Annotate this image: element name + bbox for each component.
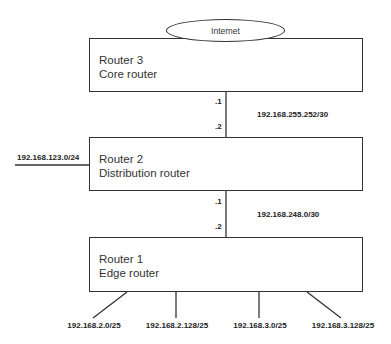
link-r1-subnet-4	[307, 292, 341, 318]
edge-subnet-2: 192.168.2.128/25	[146, 321, 208, 330]
edge-subnet-3: 192.168.3.0/25	[233, 321, 286, 330]
r3-r2-upper-host: .1	[215, 97, 222, 106]
router-3-label: Router 3 Core router	[99, 53, 157, 81]
internet-cloud: Internet	[166, 19, 285, 42]
router-1-role: Edge router	[99, 266, 159, 280]
r2-lan-network: 192.168.123.0/24	[17, 153, 79, 162]
router-2-role: Distribution router	[99, 166, 190, 180]
internet-label: Internet	[211, 26, 240, 36]
r3-r2-network: 192.168.255.252/30	[257, 110, 328, 119]
router-3-name: Router 3	[99, 53, 157, 67]
link-r1-subnet-1	[93, 292, 127, 318]
router-1-box: Router 1 Edge router	[89, 237, 363, 292]
router-3-role: Core router	[99, 67, 157, 81]
edge-subnet-4: 192.168.3.128/25	[312, 321, 374, 330]
r2-r1-lower-host: .2	[215, 222, 222, 231]
r2-r1-network: 192.168.248.0/30	[257, 210, 319, 219]
router-2-name: Router 2	[99, 152, 190, 166]
router-3-box: Router 3 Core router	[89, 38, 363, 92]
edge-subnet-1: 192.168.2.0/25	[67, 321, 120, 330]
router-1-label: Router 1 Edge router	[99, 252, 159, 280]
r3-r2-lower-host: .2	[215, 122, 222, 131]
r2-r1-upper-host: .1	[215, 197, 222, 206]
router-2-label: Router 2 Distribution router	[99, 152, 190, 180]
router-2-box: Router 2 Distribution router	[89, 137, 363, 191]
router-1-name: Router 1	[99, 252, 159, 266]
